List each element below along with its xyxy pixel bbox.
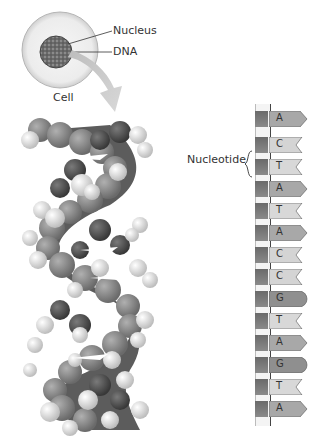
sugar-segment	[255, 225, 268, 241]
brace-icon	[244, 150, 254, 178]
sugar-segment	[255, 111, 268, 127]
nucleus-label: Nucleus	[113, 24, 157, 37]
sugar-segment	[255, 269, 268, 285]
base-letter: C	[276, 138, 283, 149]
base-letter: T	[276, 160, 282, 171]
base-a: A	[269, 225, 309, 241]
cell-label: Cell	[53, 91, 74, 104]
base-c: C	[269, 269, 309, 285]
base-letter: A	[276, 182, 283, 193]
base-letter: A	[276, 402, 283, 413]
base-t: T	[269, 379, 309, 395]
base-a: A	[269, 181, 309, 197]
base-a: A	[269, 111, 309, 127]
base-letter: A	[276, 336, 283, 347]
sugar-segment	[255, 401, 268, 417]
sugar-segment	[255, 335, 268, 351]
base-g: G	[269, 357, 309, 373]
sugar-segment	[255, 379, 268, 395]
base-letter: A	[276, 112, 283, 123]
sugar-segment	[255, 181, 268, 197]
base-letter: C	[276, 270, 283, 281]
dna-helix-model	[0, 110, 170, 437]
base-letter: A	[276, 226, 283, 237]
base-letter: C	[276, 248, 283, 259]
sugar-segment	[255, 313, 268, 329]
nucleus-icon	[40, 36, 72, 68]
base-t: T	[269, 203, 309, 219]
base-g: G	[269, 291, 309, 307]
base-c: C	[269, 247, 309, 263]
sugar-segment	[255, 247, 268, 263]
sugar-segment	[255, 203, 268, 219]
base-letter: G	[276, 292, 284, 303]
base-letter: T	[276, 380, 282, 391]
base-a: A	[269, 335, 309, 351]
base-t: T	[269, 159, 309, 175]
base-t: T	[269, 313, 309, 329]
cell-diagram	[0, 0, 170, 115]
base-letter: G	[276, 358, 284, 369]
sugar-segment	[255, 159, 268, 175]
sugar-segment	[255, 137, 268, 153]
sugar-segment	[255, 291, 268, 307]
nucleotide-label: Nucleotide	[187, 153, 246, 166]
base-a: A	[269, 401, 309, 417]
base-letter: T	[276, 204, 282, 215]
dna-label: DNA	[113, 45, 137, 58]
base-c: C	[269, 137, 309, 153]
sugar-segment	[255, 357, 268, 373]
base-letter: T	[276, 314, 282, 325]
